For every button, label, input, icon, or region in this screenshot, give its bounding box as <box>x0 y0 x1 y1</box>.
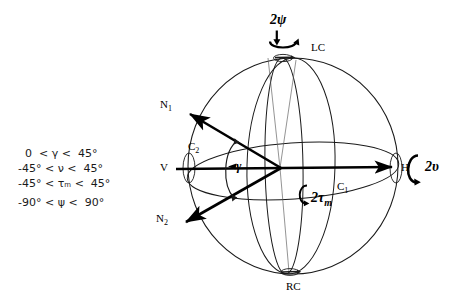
constraint-line-gamma: 0 < γ < 45° <box>18 146 158 161</box>
constraint-line-psi: -90° < ψ < 90° <box>18 195 158 210</box>
label-lc: LC <box>311 41 325 53</box>
label-h: H <box>401 161 409 173</box>
rotation-arrow-psi <box>270 31 299 48</box>
rotation-label-tau: 2τm <box>311 190 332 208</box>
rotation-arrow-nu <box>408 156 421 186</box>
angle-constraints-block: 0 < γ < 45° -45° < ν < 45° -45° < τₘ < 4… <box>18 146 158 210</box>
figure-canvas: 0 < γ < 45° -45° < ν < 45° -45° < τₘ < 4… <box>0 0 467 305</box>
label-rc: RC <box>286 280 301 292</box>
pole-axis-construction <box>268 58 296 272</box>
rotation-label-nu: 2υ <box>425 159 439 175</box>
meridian-ellipse-wide <box>244 57 338 275</box>
label-n2-text: N <box>156 212 164 224</box>
label-c2: C2 <box>188 140 199 155</box>
label-n1: N1 <box>160 98 172 113</box>
constraint-line-nu: -45° < ν < 45° <box>18 161 158 176</box>
label-c1-subscript: 1 <box>344 186 348 195</box>
label-n2: N2 <box>156 212 168 227</box>
label-n1-text: N <box>160 98 168 110</box>
rotation-label-tau-text: 2τ <box>311 190 324 205</box>
angle-label-gamma: γ <box>236 158 241 174</box>
label-c2-subscript: 2 <box>195 146 199 155</box>
rotation-label-tau-subscript: m <box>324 197 332 208</box>
vector-n2 <box>186 168 281 222</box>
axis-vector-h <box>176 167 392 169</box>
label-c1: C1 <box>337 180 348 195</box>
label-n1-subscript: 1 <box>168 104 172 113</box>
rotation-arrow-tau <box>300 186 310 207</box>
equator-ellipse <box>185 136 400 207</box>
sphere-outline <box>188 58 398 274</box>
label-v: V <box>160 161 168 173</box>
constraint-line-tau: -45° < τₘ < 45° <box>18 176 158 191</box>
rotation-label-psi: 2ψ <box>270 12 286 28</box>
label-n2-subscript: 2 <box>164 218 168 227</box>
meridian-ellipse-narrow <box>263 58 305 275</box>
